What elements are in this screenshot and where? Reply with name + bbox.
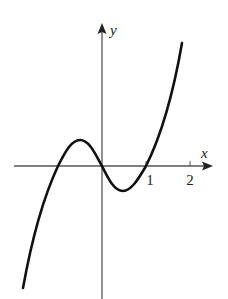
cubic-function-graph: 1 2 x y bbox=[0, 0, 228, 299]
y-axis: y bbox=[98, 22, 118, 299]
x-axis-label: x bbox=[200, 145, 208, 161]
x-tick-label-1: 1 bbox=[146, 172, 154, 188]
x-axis: 1 2 x bbox=[14, 145, 213, 188]
y-axis-label: y bbox=[108, 22, 117, 38]
x-tick-label-2: 2 bbox=[186, 172, 194, 188]
